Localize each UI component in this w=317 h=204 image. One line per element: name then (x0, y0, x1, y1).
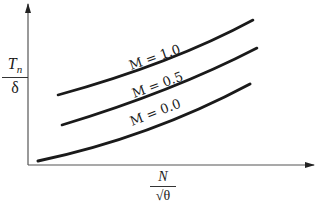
y-axis-label-numerator: Tn (2, 56, 28, 78)
label-m-1-0: M = 1.0 (127, 41, 182, 72)
y-axis-label-denominator: δ (2, 78, 28, 96)
chart-figure: M = 1.0 M = 0.5 M = 0.0 Tn δ N √θ (0, 0, 317, 204)
y-axis-label: Tn δ (2, 56, 28, 96)
x-axis-label: N √θ (150, 170, 176, 203)
x-axis-label-numerator: N (150, 170, 176, 187)
x-axis-label-denominator: √θ (150, 187, 176, 203)
